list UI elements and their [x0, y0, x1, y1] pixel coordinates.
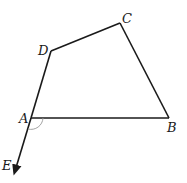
label-b: B: [166, 120, 177, 135]
quadrilateral-diagram: A B C D E: [0, 0, 187, 183]
side-bc: [120, 23, 169, 118]
label-c: C: [122, 11, 132, 26]
label-d: D: [37, 43, 49, 58]
label-a: A: [18, 111, 28, 126]
side-da: [31, 51, 51, 118]
side-cd: [51, 23, 120, 51]
label-e: E: [1, 158, 12, 173]
